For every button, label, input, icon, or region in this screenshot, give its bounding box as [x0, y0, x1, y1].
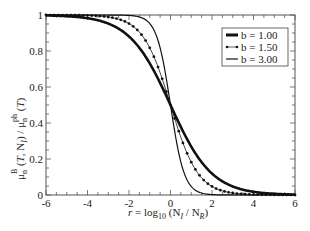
curve-marker — [123, 20, 126, 23]
legend-label: b = 1.50 — [241, 41, 278, 53]
x-axis-label: r = log10 (NI / NR) — [128, 206, 208, 221]
y-tick-label: 0.2 — [29, 153, 43, 165]
curve-marker — [148, 46, 151, 49]
curve-marker — [157, 66, 160, 69]
curve-marker — [202, 179, 205, 182]
x-tick-label: -4 — [83, 197, 93, 209]
y-tick-label: 0.8 — [29, 45, 43, 57]
legend-label: b = 1.00 — [241, 29, 278, 41]
y-axis-label: μnB (T, NI) / μnph (T) — [10, 97, 29, 180]
curve-marker — [140, 33, 143, 36]
curve-marker — [231, 192, 234, 195]
curve-marker — [219, 189, 222, 192]
curve-marker — [211, 185, 214, 188]
svg-text:r = log10 (NI / NR): r = log10 (NI / NR) — [128, 206, 208, 221]
x-tick-label: 4 — [251, 197, 257, 209]
curve-marker — [161, 77, 164, 80]
legend: b = 1.00 b = 1.50 b = 3.00 — [222, 28, 288, 66]
curve-marker — [186, 152, 189, 155]
legend-label: b = 3.00 — [241, 53, 278, 65]
y-tick-label: 0 — [38, 189, 44, 201]
curve-marker — [115, 17, 118, 20]
curve-marker — [190, 161, 193, 164]
curve-marker — [136, 29, 139, 32]
curve-marker — [132, 25, 135, 28]
chart: -6-4-2024600.20.40.60.81 b = 1.00 b = 1.… — [0, 0, 310, 231]
curve-marker — [128, 22, 131, 25]
curve-marker — [177, 130, 180, 133]
curve-marker — [182, 142, 185, 145]
curve-marker — [194, 168, 197, 171]
curve-marker — [153, 55, 156, 58]
curve-marker — [111, 16, 114, 19]
curve-marker — [227, 191, 230, 194]
curve-marker — [206, 182, 209, 185]
x-tick-label: 2 — [209, 197, 215, 209]
curve-marker — [107, 16, 110, 19]
y-tick-label: 1 — [38, 9, 44, 21]
curve-marker — [119, 18, 122, 21]
y-tick-label: 0.4 — [29, 117, 43, 129]
x-tick-label: 6 — [292, 197, 298, 209]
curve-marker — [144, 39, 147, 42]
curve-marker — [173, 117, 176, 120]
curve-marker — [215, 187, 218, 190]
curve-marker — [223, 190, 226, 193]
y-tick-label: 0.6 — [29, 81, 43, 93]
curve-marker — [198, 174, 201, 177]
curve-marker — [165, 90, 168, 93]
svg-text:μnB (T, NI) / μnph (T): μnB (T, NI) / μnph (T) — [10, 97, 29, 180]
